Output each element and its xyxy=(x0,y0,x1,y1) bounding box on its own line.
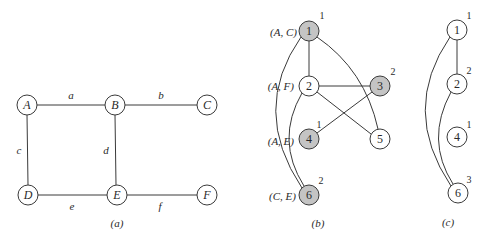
node-label-b6: 6 xyxy=(306,188,312,202)
color-label-c2: 2 xyxy=(467,65,472,76)
panel-c-nodes: 1 1 2 2 4 1 6 3 xyxy=(447,10,472,204)
edge-d xyxy=(115,115,116,185)
panel-a-nodes: A B C D E F xyxy=(17,95,217,205)
edge-label-a: a xyxy=(68,89,74,101)
color-label-c4: 1 xyxy=(467,119,472,130)
node-label-A: A xyxy=(22,98,31,112)
node-label-c2: 2 xyxy=(454,77,460,91)
panel-b-nodes: 1 1 2 3 2 4 1 5 6 2 xyxy=(299,10,396,206)
graph-coloring-diagram: a b c d e f A B C D E F (a) (A, C) (A, F… xyxy=(0,0,491,239)
node-label-b2: 2 xyxy=(306,79,312,93)
node-label-b3: 3 xyxy=(377,79,383,93)
edge-label-c: c xyxy=(17,144,22,156)
color-label-c6: 3 xyxy=(467,174,472,185)
color-label-b3: 2 xyxy=(391,66,396,77)
caption-a: (a) xyxy=(111,217,124,230)
node-label-F: F xyxy=(202,188,211,202)
panel-a-edges xyxy=(27,105,197,195)
edge-label-e: e xyxy=(70,200,75,212)
node-label-c4: 4 xyxy=(454,130,460,144)
node-label-D: D xyxy=(23,188,33,202)
color-label-b4: 1 xyxy=(317,119,322,130)
node-label-E: E xyxy=(112,188,121,202)
color-label-c1: 1 xyxy=(467,10,472,21)
node-label-c1: 1 xyxy=(454,23,460,37)
edge-c-1-6 xyxy=(425,37,451,186)
pair-label-ac: (A, C) xyxy=(270,26,297,39)
pair-label-af: (A, F) xyxy=(268,80,295,93)
panel-c-edges xyxy=(425,37,457,186)
node-label-C: C xyxy=(203,98,212,112)
node-label-b1: 1 xyxy=(306,24,312,38)
color-label-b6: 2 xyxy=(319,175,324,186)
node-label-B: B xyxy=(111,98,119,112)
caption-b: (b) xyxy=(312,217,325,230)
panel-b-edges xyxy=(276,37,378,188)
edge-label-f: f xyxy=(158,200,163,212)
node-label-c6: 6 xyxy=(455,186,461,200)
caption-c: (c) xyxy=(442,216,455,229)
panel-a-edge-labels: a b c d e f xyxy=(17,89,165,212)
pair-label-ce: (C, E) xyxy=(269,190,296,203)
pair-label-ae: (A, E) xyxy=(268,135,295,148)
edge-label-b: b xyxy=(158,89,164,101)
color-label-b1: 1 xyxy=(320,10,325,21)
node-label-b5: 5 xyxy=(377,132,383,146)
edge-c xyxy=(27,115,28,185)
edge-1-6 xyxy=(276,37,302,188)
edge-label-d: d xyxy=(103,144,109,156)
node-label-b4: 4 xyxy=(306,132,312,146)
